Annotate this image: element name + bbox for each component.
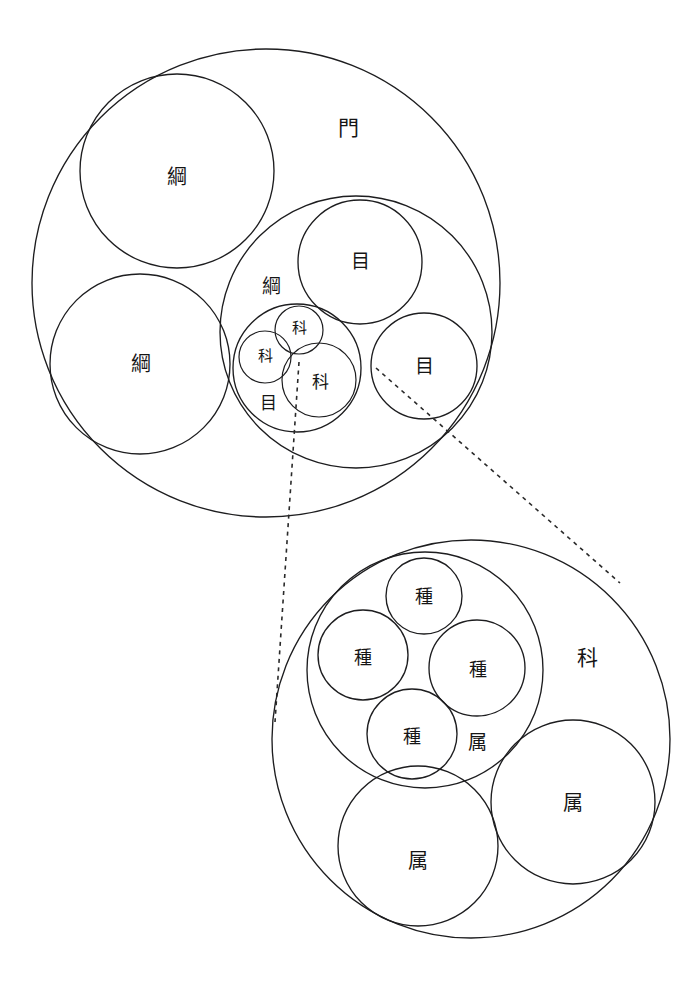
family-detail-group: 科 属 属 属 種 種 種 種 (272, 540, 670, 938)
genus-label-bottom-left: 属 (408, 849, 428, 873)
family-root-label: 科 (577, 646, 598, 670)
class-circle-right[interactable] (220, 196, 492, 468)
taxonomy-svg-canvas: 門 綱 綱 綱 目 目 目 科 科 科 (0, 0, 699, 983)
species-label-bottom: 種 (403, 726, 421, 747)
leader-line-left (275, 362, 299, 722)
genus-label-right: 属 (563, 791, 583, 815)
order-label-top: 目 (351, 250, 370, 272)
leader-line-right (376, 368, 620, 583)
species-label-top: 種 (415, 586, 433, 607)
phylum-group: 門 綱 綱 綱 目 目 目 科 科 科 (32, 49, 500, 517)
taxonomy-diagram: 門 綱 綱 綱 目 目 目 科 科 科 (0, 0, 699, 983)
family-label-upper-small: 科 (292, 319, 307, 337)
family-label-left-small: 科 (258, 347, 273, 365)
species-label-left: 種 (354, 647, 372, 668)
order-label-right: 目 (415, 355, 434, 377)
phylum-root-label: 門 (338, 116, 359, 140)
order-label-detail: 目 (260, 393, 277, 413)
genus-circle-bottom-left[interactable] (338, 766, 498, 926)
genus-label-detail: 属 (468, 731, 487, 753)
class-label-right: 綱 (262, 275, 281, 297)
class-label-top-left: 綱 (167, 165, 187, 189)
species-label-right: 種 (469, 659, 487, 680)
class-label-bottom-left: 綱 (131, 352, 151, 376)
family-label-zoomed: 科 (312, 372, 329, 392)
